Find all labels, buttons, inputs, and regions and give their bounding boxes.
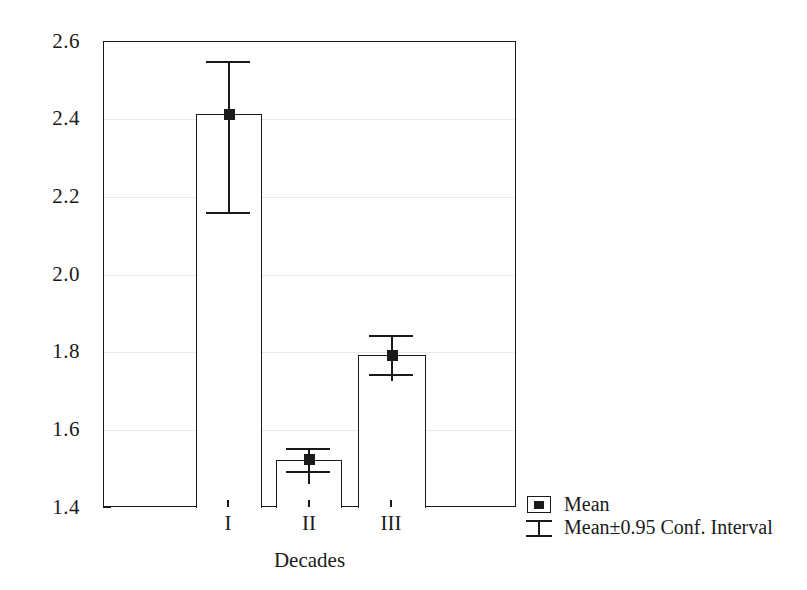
gridline — [104, 430, 515, 431]
y-tick-label: 1.8 — [20, 341, 80, 362]
x-tick-mark — [227, 500, 229, 507]
legend-label-mean: Mean — [564, 493, 610, 516]
error-bar-cap-lower-II — [286, 471, 330, 473]
y-tick-label: 2.4 — [20, 108, 80, 129]
gridline — [104, 119, 515, 120]
y-tick-label: 1.4 — [20, 497, 80, 518]
gridline — [104, 352, 515, 353]
error-bar-cap-upper-III — [369, 335, 413, 337]
legend-key-ibeam-bottom-cap — [526, 535, 552, 537]
plot-area — [103, 41, 516, 507]
mean-marker-II — [304, 454, 315, 465]
x-axis-title: Decades — [103, 548, 516, 573]
mean-marker-I — [224, 109, 235, 120]
gridline — [104, 197, 515, 198]
chart-figure: 2.6 2.4 2.2 2.0 1.8 1.6 1.4 SOC Content … — [0, 0, 807, 590]
error-bar-line-I — [228, 61, 230, 214]
chart-legend: Mean Mean±0.95 Conf. Interval — [524, 494, 804, 540]
y-tick-label: 2.6 — [20, 31, 80, 52]
x-tick-label-III: III — [351, 512, 431, 534]
error-bar-cap-lower-I — [206, 212, 250, 214]
legend-row-confidence-interval: Mean±0.95 Conf. Interval — [524, 517, 804, 540]
legend-key-square-fill — [534, 501, 544, 509]
mean-square-marker-icon — [524, 494, 556, 517]
x-tick-label-II: II — [269, 512, 349, 534]
x-tick-mark — [390, 500, 392, 507]
y-tick-label: 2.2 — [20, 186, 80, 207]
x-tick-label-I: I — [188, 512, 268, 534]
gridline — [104, 275, 515, 276]
error-bar-cap-upper-I — [206, 61, 250, 63]
mean-marker-III — [387, 350, 398, 361]
legend-row-mean: Mean — [524, 494, 804, 517]
legend-label-confidence-interval: Mean±0.95 Conf. Interval — [564, 516, 773, 539]
x-tick-mark — [308, 500, 310, 507]
y-tick-label: 2.0 — [20, 264, 80, 285]
error-bar-cap-upper-II — [286, 448, 330, 450]
y-tick-label: 1.6 — [20, 419, 80, 440]
error-bar-ibeam-icon — [524, 517, 556, 540]
error-bar-cap-lower-III — [369, 374, 413, 376]
